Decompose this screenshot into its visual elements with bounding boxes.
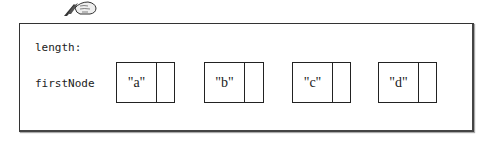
hand-writing-quill-icon	[62, 0, 98, 17]
node-a: "a"	[116, 62, 175, 103]
node-data: "c"	[293, 63, 333, 102]
node-d: "d"	[378, 62, 437, 103]
first-node-field-label: firstNode	[35, 77, 95, 90]
node-next-pointer	[419, 63, 436, 102]
node-data: "b"	[205, 63, 245, 102]
node-c: "c"	[292, 62, 351, 103]
node-b: "b"	[204, 62, 264, 103]
length-field-label: length:	[35, 41, 81, 54]
node-data: "d"	[379, 63, 419, 102]
node-data: "a"	[117, 63, 157, 102]
node-next-pointer	[333, 63, 350, 102]
node-next-pointer	[245, 63, 263, 102]
node-next-pointer	[157, 63, 174, 102]
